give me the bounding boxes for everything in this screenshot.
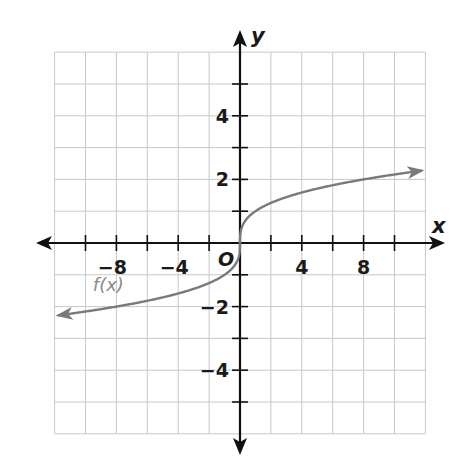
origin-label: O	[218, 248, 234, 270]
x-tick-label: 4	[295, 256, 308, 278]
function-label: f(x)	[93, 274, 124, 295]
y-tick-label: −2	[200, 296, 229, 318]
x-axis-label: x	[431, 214, 447, 238]
coordinate-plane: −8−44842−2−4 x y O f(x)	[0, 0, 461, 474]
y-axis-label: y	[251, 24, 266, 48]
y-tick-label: 2	[216, 168, 229, 190]
y-tick-label: 4	[216, 105, 229, 127]
x-tick-label: 8	[357, 256, 370, 278]
y-tick-label: −4	[200, 359, 229, 381]
x-tick-label: −4	[160, 256, 189, 278]
